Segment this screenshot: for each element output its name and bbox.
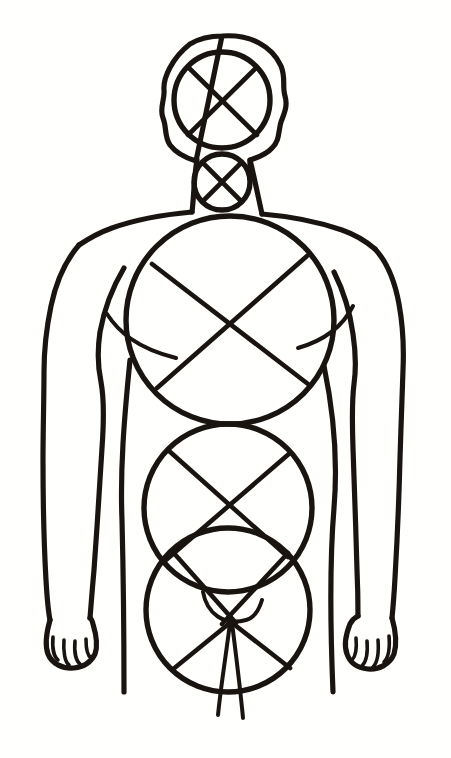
jaw-cross-icon xyxy=(203,163,241,201)
pectoral-arc-left xyxy=(107,314,176,358)
pectoral-arc-right xyxy=(298,306,353,348)
arm-right-inner xyxy=(334,272,358,616)
neck-left-line xyxy=(192,160,197,212)
leg-divide-right xyxy=(232,623,243,718)
chest-circle xyxy=(126,216,334,424)
torso-left-contour xyxy=(121,360,130,692)
pelvis-cross-icon xyxy=(172,551,290,670)
hand-right-fingers xyxy=(352,636,389,667)
drawing-canvas: Human Figure Construction Sketch xyxy=(0,0,451,758)
leg-divide-left xyxy=(218,623,230,715)
arm-left-inner xyxy=(90,268,124,618)
shoulder-right-line xyxy=(262,214,375,249)
chest-cross-icon xyxy=(152,256,308,388)
cranium-cross-icon xyxy=(188,67,257,135)
hand-left-fingers xyxy=(53,637,91,665)
torso-right-contour xyxy=(324,366,336,692)
shoulder-left-line xyxy=(79,212,192,245)
arm-left-outer xyxy=(43,245,79,620)
arm-right-outer xyxy=(375,249,403,618)
figure-construction-diagram xyxy=(0,0,451,758)
